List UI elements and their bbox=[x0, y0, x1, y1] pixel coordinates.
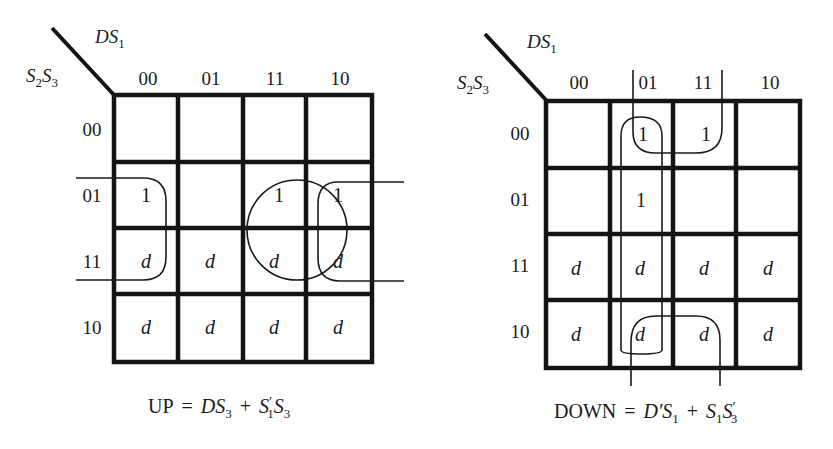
col-var-label: DS1 bbox=[526, 31, 557, 56]
col-label: 01 bbox=[639, 72, 658, 93]
cell: 1 bbox=[701, 123, 711, 145]
row-var-label: S2S3 bbox=[457, 72, 489, 97]
equation-up: UP=DS3+S′1S3 bbox=[148, 395, 290, 421]
cell: d bbox=[141, 250, 152, 272]
cell: d bbox=[205, 250, 216, 272]
cell: d bbox=[635, 323, 646, 345]
cell: d bbox=[269, 316, 280, 338]
kmap-down: DS1 S2S3 00 01 11 10 00 01 11 10 1 1 1 d… bbox=[457, 31, 800, 426]
row-var-label: S2S3 bbox=[26, 65, 58, 90]
cell: d bbox=[333, 316, 344, 338]
row-label: 10 bbox=[511, 321, 530, 342]
row-label: 11 bbox=[83, 251, 101, 272]
cell: 1 bbox=[141, 184, 151, 206]
cell: d bbox=[763, 323, 774, 345]
col-label: 11 bbox=[266, 68, 284, 89]
cell: 1 bbox=[638, 123, 648, 145]
grid bbox=[546, 101, 800, 368]
cell: d bbox=[333, 250, 344, 272]
cell: d bbox=[571, 323, 582, 345]
cell: d bbox=[141, 316, 152, 338]
cell: 1 bbox=[274, 184, 284, 206]
row-label: 01 bbox=[511, 189, 530, 210]
cell: 1 bbox=[636, 189, 646, 211]
kmap-up: DS1 S2S3 00 01 11 10 00 01 11 10 1 1 1 d… bbox=[26, 26, 404, 421]
row-label: 00 bbox=[83, 119, 102, 140]
equation-down: DOWN=D′S1+S1S′3 bbox=[554, 400, 737, 426]
col-label: 11 bbox=[694, 72, 712, 93]
col-label: 10 bbox=[331, 68, 350, 89]
cell: d bbox=[699, 323, 710, 345]
cell: d bbox=[205, 316, 216, 338]
col-label: 00 bbox=[570, 72, 589, 93]
cell: d bbox=[269, 250, 280, 272]
row-label: 00 bbox=[511, 123, 530, 144]
cell: d bbox=[571, 257, 582, 279]
row-label: 10 bbox=[83, 317, 102, 338]
row-label: 01 bbox=[83, 185, 102, 206]
col-label: 01 bbox=[202, 68, 221, 89]
cell: d bbox=[635, 257, 646, 279]
col-label: 10 bbox=[761, 72, 780, 93]
row-label: 11 bbox=[511, 255, 529, 276]
col-var-label: DS1 bbox=[94, 26, 125, 51]
col-label: 00 bbox=[139, 68, 158, 89]
cell: d bbox=[763, 257, 774, 279]
cell: d bbox=[699, 257, 710, 279]
kmap-figure: DS1 S2S3 00 01 11 10 00 01 11 10 1 1 1 d… bbox=[0, 0, 833, 449]
